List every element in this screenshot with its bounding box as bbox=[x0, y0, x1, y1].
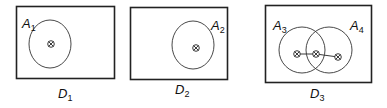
region-a4 bbox=[306, 27, 352, 73]
label-a1: A1 bbox=[21, 16, 36, 33]
label-d3: D3 bbox=[310, 86, 324, 103]
label-d1: D1 bbox=[58, 86, 72, 103]
region-a2 bbox=[172, 21, 214, 69]
diagram-d2: A2 D2 bbox=[131, 8, 228, 100]
label-d2: D2 bbox=[175, 82, 189, 99]
domain-box-d1 bbox=[17, 7, 115, 79]
center-marker-icon bbox=[193, 45, 200, 52]
label-a4: A4 bbox=[349, 18, 364, 35]
label-a3: A3 bbox=[272, 18, 287, 35]
center-marker-icon bbox=[313, 51, 320, 58]
label-a2: A2 bbox=[210, 18, 225, 35]
center-marker-icon bbox=[48, 41, 55, 48]
center-marker-icon bbox=[335, 54, 342, 61]
domain-diagrams: A1 D1 A2 D2 A3 A4 D3 bbox=[0, 0, 387, 108]
center-marker-icon bbox=[294, 51, 301, 58]
diagram-d3: A3 A4 D3 bbox=[266, 6, 372, 104]
diagram-d1: A1 D1 bbox=[17, 7, 115, 104]
